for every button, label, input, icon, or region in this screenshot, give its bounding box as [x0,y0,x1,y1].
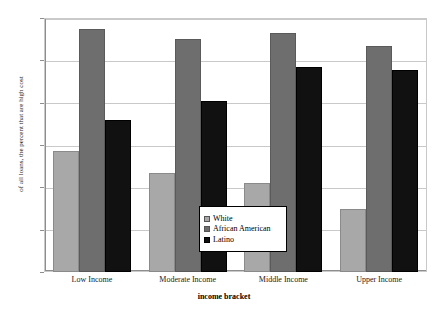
bar [366,46,392,272]
x-axis-tick-label: Moderate Income [140,275,236,284]
bar-chart: 0102030405060 of all loans, the percent … [0,0,448,310]
chart-title [0,0,448,3]
bar [53,151,79,272]
bar-group [331,18,427,272]
legend: WhiteAfrican AmericanLatino [199,206,287,252]
y-axis-tick-mark [40,272,44,273]
x-axis-tick-label: Low Income [44,275,140,284]
bar [79,29,105,272]
x-axis-tick-label: Upper Income [331,275,427,284]
bar [296,67,322,272]
legend-swatch-icon [204,226,210,232]
x-axis-title: income bracket [0,292,448,301]
bar-group [44,18,140,272]
bar [392,70,418,272]
legend-label: African American [213,225,271,233]
bar [105,120,131,272]
x-axis-tick-labels: Low IncomeModerate IncomeMiddle IncomeUp… [44,275,427,284]
legend-label: White [213,215,233,223]
legend-item: Latino [204,236,281,244]
y-axis-title: of all loans, the percent that are high … [17,29,25,239]
legend-swatch-icon [204,237,210,243]
bar [149,173,175,272]
bar [175,39,201,272]
x-axis-tick-label: Middle Income [236,275,332,284]
legend-item: White [204,215,281,223]
legend-item: African American [204,225,281,233]
legend-label: Latino [213,236,234,244]
legend-swatch-icon [204,216,210,222]
bar [340,209,366,273]
